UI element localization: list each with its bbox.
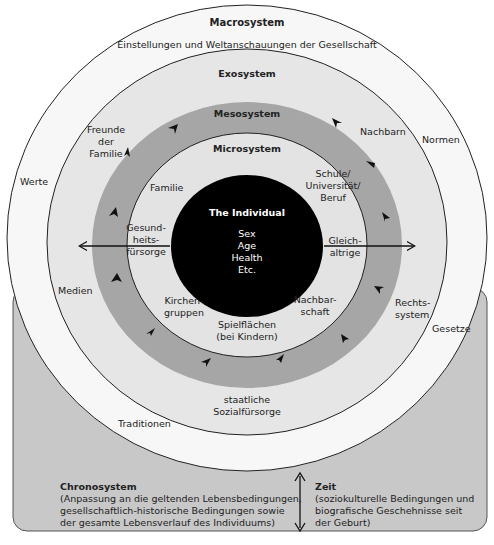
micro-item-schule: Schule/ Universität/ Beruf — [298, 168, 368, 204]
exo-item-medien: Medien — [58, 285, 93, 297]
macrosystem-subtitle: Einstellungen und Weltanschauungen der G… — [0, 39, 494, 51]
micro-item-kirchengruppen: Kirchen- gruppen — [158, 295, 210, 319]
individual-title: The Individual — [197, 207, 297, 219]
zeit-text: Zeit (soziokulturelle Bedingungen und bi… — [315, 481, 475, 529]
macro-item-gesetze: Gesetze — [432, 323, 471, 335]
micro-item-familie: Familie — [150, 182, 183, 194]
micro-item-nachbarschaft: Nachbar- schaft — [290, 294, 340, 318]
macrosystem-title: Macrosystem — [0, 17, 494, 29]
exo-item-rechtssystem: Rechts- system — [395, 297, 445, 321]
micro-item-gesundheitsfuersorge: Gesund- heits- fürsorge — [120, 222, 172, 258]
micro-item-gleichaltrige: Gleich- altrige — [322, 235, 368, 259]
exo-item-nachbarn: Nachbarn — [360, 126, 406, 138]
macro-item-traditionen: Traditionen — [118, 418, 171, 430]
macro-item-werte: Werte — [20, 176, 48, 188]
micro-item-spielflaechen: Spielflächen (bei Kindern) — [207, 319, 287, 343]
individual-attributes: Sex Age Health Etc. — [207, 228, 287, 276]
chronosystem-text: Chronosystem (Anpassung an die geltenden… — [60, 481, 300, 529]
microsystem-title: Microsystem — [0, 143, 494, 155]
exosystem-title: Exosystem — [0, 68, 494, 80]
mesosystem-title: Mesosystem — [0, 108, 494, 120]
exo-item-sozialfuersorge: staatliche Sozialfürsorge — [200, 394, 294, 418]
